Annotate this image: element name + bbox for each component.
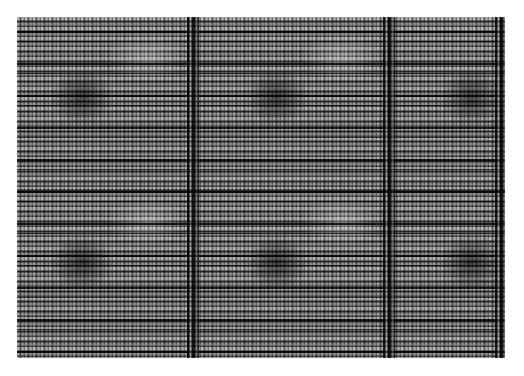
- texture-image: [17, 17, 505, 358]
- dark-vertical-band: [383, 17, 395, 358]
- horizontal-seam: [17, 189, 505, 193]
- dark-horizontal-lines: [17, 17, 505, 358]
- dark-vertical-band: [187, 17, 199, 358]
- dark-vertical-band: [495, 17, 505, 358]
